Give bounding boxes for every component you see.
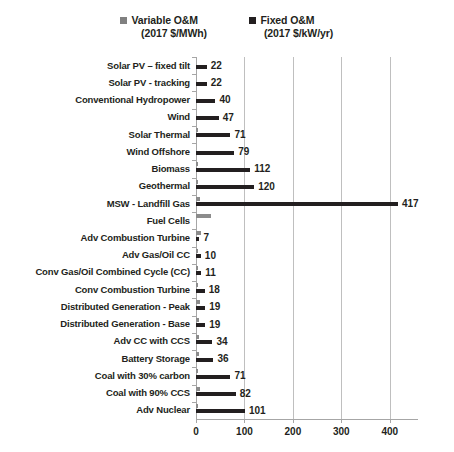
legend-swatch-fixed-icon [249,17,256,24]
bar-variable-om[interactable] [196,369,198,373]
bar-fixed-om[interactable] [196,392,236,396]
bar-fixed-om[interactable] [196,65,207,69]
bar-value-label: 22 [211,60,222,71]
legend-label-fixed-om: Fixed O&M [261,14,315,26]
bar-fixed-om[interactable] [196,271,201,275]
category-label: Battery Storage [0,353,190,364]
legend-labels-row: Variable O&M Fixed O&M [94,14,361,26]
bar-variable-om[interactable] [196,162,198,166]
bar-fixed-om[interactable] [196,133,230,137]
bar-row: 112 [196,160,414,177]
category-label: Biomass [0,163,190,174]
bar-fixed-om[interactable] [196,168,250,172]
x-tick-200 [293,419,294,423]
bar-fixed-om[interactable] [196,237,199,241]
legend-item-fixed-om: Fixed O&M [245,14,361,26]
bar-value-label: 417 [402,198,419,209]
category-label: Conv Gas/Oil Combined Cycle (CC) [0,266,190,277]
category-label: Distributed Generation - Base [0,318,190,329]
legend-units-row: (2017 $/MWh) (2017 $/kW/yr) [100,27,355,39]
bar-row: 47 [196,109,414,126]
bar-fixed-om[interactable] [196,202,398,206]
bar-row: 18 [196,281,414,298]
category-label: MSW - Landfill Gas [0,198,190,209]
legend-swatch-variable-icon [120,17,127,24]
bar-fixed-om[interactable] [196,375,230,379]
bar-value-label: 10 [205,250,216,261]
plot-area: 2222404771791121204177101118191934367182… [196,57,414,419]
category-label: Adv Combustion Turbine [0,232,190,243]
category-label: Coal with 30% carbon [0,370,190,381]
chart-legend: Variable O&M Fixed O&M (2017 $/MWh) (201… [0,14,454,39]
category-label: Adv CC with CCS [0,335,190,346]
bar-variable-om[interactable] [196,335,199,339]
bar-fixed-om[interactable] [196,340,212,344]
bar-row: 7 [196,229,414,246]
bar-value-label: 82 [240,388,251,399]
bar-variable-om[interactable] [196,128,198,132]
bar-row: 82 [196,385,414,402]
bar-value-label: 71 [234,129,245,140]
bar-row [196,212,414,229]
bar-fixed-om[interactable] [196,306,205,310]
bar-row: 19 [196,316,414,333]
category-label: Geothermal [0,180,190,191]
bar-variable-om[interactable] [196,231,201,235]
x-tick-label-200: 200 [285,426,302,437]
om-cost-bar-chart: Variable O&M Fixed O&M (2017 $/MWh) (201… [0,0,454,452]
bar-fixed-om[interactable] [196,409,245,413]
bar-row: 101 [196,402,414,419]
bar-row: 10 [196,247,414,264]
bar-row: 22 [196,57,414,74]
bar-variable-om[interactable] [196,197,200,201]
bar-value-label: 22 [211,77,222,88]
bar-row: 34 [196,333,414,350]
category-label: Solar PV – fixed tilt [0,60,190,71]
bar-variable-om[interactable] [196,404,198,408]
bar-variable-om[interactable] [196,387,200,391]
bar-fixed-om[interactable] [196,289,205,293]
bar-value-label: 71 [234,370,245,381]
category-label: Solar Thermal [0,129,190,140]
bar-value-label: 19 [209,319,220,330]
bar-value-label: 34 [216,336,227,347]
bar-variable-om[interactable] [196,249,198,253]
category-label: Adv Nuclear [0,404,190,415]
bar-variable-om[interactable] [196,266,198,270]
bar-variable-om[interactable] [196,318,199,322]
bar-variable-om[interactable] [196,214,211,218]
x-tick-label-400: 400 [381,426,398,437]
bar-fixed-om[interactable] [196,82,207,86]
bar-row: 417 [196,195,414,212]
x-tick-label-300: 300 [333,426,350,437]
category-label: Wind Offshore [0,146,190,157]
bar-value-label: 101 [249,405,266,416]
legend-item-variable-om: Variable O&M [94,14,245,26]
bar-fixed-om[interactable] [196,323,205,327]
bar-row: 71 [196,126,414,143]
bar-value-label: 7 [203,232,209,243]
x-tick-400 [390,419,391,423]
bar-fixed-om[interactable] [196,116,219,120]
x-axis-line [196,419,418,420]
bar-fixed-om[interactable] [196,358,213,362]
bar-row: 120 [196,178,414,195]
bar-value-label: 36 [217,353,228,364]
bar-variable-om[interactable] [196,300,200,304]
bar-fixed-om[interactable] [196,185,254,189]
x-tick-0 [196,419,197,423]
category-axis-labels: Solar PV – fixed tiltSolar PV - tracking… [0,57,190,419]
bar-fixed-om[interactable] [196,151,234,155]
bar-variable-om[interactable] [196,180,198,184]
bar-variable-om[interactable] [196,352,199,356]
bar-value-label: 40 [219,94,230,105]
legend-units-variable-om: (2017 $/MWh) [100,27,237,39]
bar-fixed-om[interactable] [196,254,201,258]
bar-row: 11 [196,264,414,281]
bar-value-label: 11 [205,267,216,278]
x-tick-300 [341,419,342,423]
bar-fixed-om[interactable] [196,99,215,103]
category-label: Conventional Hydropower [0,94,190,105]
bar-row: 71 [196,367,414,384]
bar-variable-om[interactable] [196,283,198,287]
